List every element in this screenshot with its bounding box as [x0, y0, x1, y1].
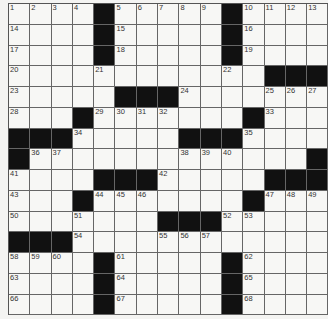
answer-cell[interactable]: 25: [265, 87, 286, 108]
answer-cell[interactable]: [222, 87, 243, 108]
answer-cell[interactable]: [307, 274, 328, 295]
answer-cell[interactable]: 35: [243, 129, 264, 150]
answer-cell[interactable]: [158, 149, 179, 170]
answer-cell[interactable]: [73, 25, 94, 46]
answer-cell[interactable]: [265, 129, 286, 150]
answer-cell[interactable]: [30, 295, 51, 316]
answer-cell[interactable]: [137, 232, 158, 253]
answer-cell[interactable]: [265, 212, 286, 233]
answer-cell[interactable]: [243, 170, 264, 191]
answer-cell[interactable]: 19: [243, 46, 264, 67]
answer-cell[interactable]: [30, 274, 51, 295]
answer-cell[interactable]: [265, 46, 286, 67]
answer-cell[interactable]: 55: [158, 232, 179, 253]
answer-cell[interactable]: [73, 295, 94, 316]
answer-cell[interactable]: [307, 232, 328, 253]
answer-cell[interactable]: [137, 295, 158, 316]
answer-cell[interactable]: [158, 66, 179, 87]
answer-cell[interactable]: [73, 46, 94, 67]
answer-cell[interactable]: [30, 108, 51, 129]
answer-cell[interactable]: [286, 295, 307, 316]
answer-cell[interactable]: 20: [9, 66, 30, 87]
answer-cell[interactable]: [30, 170, 51, 191]
answer-cell[interactable]: 50: [9, 212, 30, 233]
answer-cell[interactable]: 48: [286, 191, 307, 212]
answer-cell[interactable]: 60: [52, 253, 73, 274]
answer-cell[interactable]: [52, 274, 73, 295]
answer-cell[interactable]: 63: [9, 274, 30, 295]
answer-cell[interactable]: 1: [9, 4, 30, 25]
answer-cell[interactable]: [52, 25, 73, 46]
answer-cell[interactable]: 30: [115, 108, 136, 129]
answer-cell[interactable]: 23: [9, 87, 30, 108]
answer-cell[interactable]: [158, 253, 179, 274]
answer-cell[interactable]: [52, 46, 73, 67]
answer-cell[interactable]: 29: [94, 108, 115, 129]
answer-cell[interactable]: [222, 170, 243, 191]
answer-cell[interactable]: 59: [30, 253, 51, 274]
answer-cell[interactable]: [158, 129, 179, 150]
answer-cell[interactable]: [201, 274, 222, 295]
answer-cell[interactable]: 32: [158, 108, 179, 129]
answer-cell[interactable]: [30, 25, 51, 46]
answer-cell[interactable]: [222, 232, 243, 253]
answer-cell[interactable]: [52, 87, 73, 108]
answer-cell[interactable]: [115, 149, 136, 170]
answer-cell[interactable]: 11: [265, 4, 286, 25]
answer-cell[interactable]: [137, 253, 158, 274]
answer-cell[interactable]: 9: [201, 4, 222, 25]
answer-cell[interactable]: 21: [94, 66, 115, 87]
answer-cell[interactable]: 62: [243, 253, 264, 274]
answer-cell[interactable]: 67: [115, 295, 136, 316]
answer-cell[interactable]: [307, 295, 328, 316]
answer-cell[interactable]: [286, 149, 307, 170]
answer-cell[interactable]: 7: [158, 4, 179, 25]
answer-cell[interactable]: [158, 295, 179, 316]
answer-cell[interactable]: [73, 149, 94, 170]
answer-cell[interactable]: [307, 253, 328, 274]
answer-cell[interactable]: [137, 149, 158, 170]
answer-cell[interactable]: [30, 191, 51, 212]
answer-cell[interactable]: [307, 25, 328, 46]
answer-cell[interactable]: [265, 253, 286, 274]
answer-cell[interactable]: [94, 129, 115, 150]
answer-cell[interactable]: [286, 108, 307, 129]
answer-cell[interactable]: 24: [179, 87, 200, 108]
answer-cell[interactable]: 5: [115, 4, 136, 25]
answer-cell[interactable]: [265, 25, 286, 46]
answer-cell[interactable]: [115, 66, 136, 87]
answer-cell[interactable]: [73, 170, 94, 191]
answer-cell[interactable]: [52, 66, 73, 87]
answer-cell[interactable]: [243, 149, 264, 170]
answer-cell[interactable]: [307, 46, 328, 67]
answer-cell[interactable]: [201, 170, 222, 191]
answer-cell[interactable]: 28: [9, 108, 30, 129]
answer-cell[interactable]: [30, 46, 51, 67]
answer-cell[interactable]: [137, 25, 158, 46]
answer-cell[interactable]: 56: [179, 232, 200, 253]
answer-cell[interactable]: 14: [9, 25, 30, 46]
answer-cell[interactable]: [286, 25, 307, 46]
answer-cell[interactable]: 26: [286, 87, 307, 108]
answer-cell[interactable]: 47: [265, 191, 286, 212]
answer-cell[interactable]: [52, 108, 73, 129]
answer-cell[interactable]: [222, 108, 243, 129]
answer-cell[interactable]: 22: [222, 66, 243, 87]
answer-cell[interactable]: 61: [115, 253, 136, 274]
answer-cell[interactable]: [179, 108, 200, 129]
answer-cell[interactable]: [73, 87, 94, 108]
answer-cell[interactable]: [222, 191, 243, 212]
answer-cell[interactable]: [307, 212, 328, 233]
answer-cell[interactable]: [179, 274, 200, 295]
answer-cell[interactable]: 64: [115, 274, 136, 295]
answer-cell[interactable]: [201, 87, 222, 108]
answer-cell[interactable]: [265, 274, 286, 295]
answer-cell[interactable]: [179, 295, 200, 316]
answer-cell[interactable]: [201, 25, 222, 46]
answer-cell[interactable]: [286, 212, 307, 233]
answer-cell[interactable]: [179, 253, 200, 274]
answer-cell[interactable]: [201, 295, 222, 316]
answer-cell[interactable]: [179, 46, 200, 67]
answer-cell[interactable]: 6: [137, 4, 158, 25]
answer-cell[interactable]: [286, 232, 307, 253]
